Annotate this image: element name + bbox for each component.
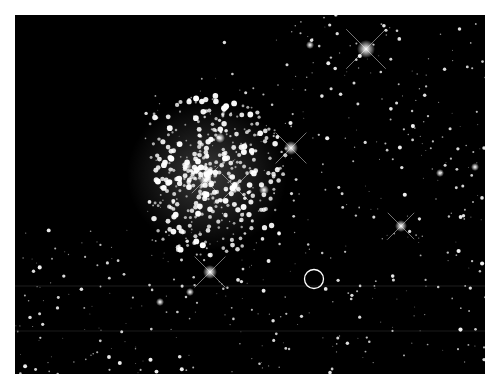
star bbox=[142, 361, 143, 362]
star bbox=[38, 340, 39, 341]
star bbox=[225, 155, 230, 160]
star bbox=[214, 181, 216, 183]
star bbox=[332, 301, 333, 302]
star bbox=[252, 187, 253, 188]
star bbox=[28, 300, 30, 302]
star bbox=[448, 215, 450, 217]
star bbox=[195, 101, 197, 103]
star bbox=[455, 242, 456, 243]
star bbox=[303, 111, 304, 112]
star bbox=[251, 107, 253, 109]
star bbox=[218, 127, 224, 133]
star bbox=[435, 198, 437, 200]
star bbox=[248, 190, 251, 193]
star bbox=[221, 105, 227, 111]
star bbox=[240, 226, 242, 228]
star bbox=[217, 170, 221, 174]
star bbox=[481, 219, 482, 220]
star bbox=[247, 112, 253, 118]
star bbox=[207, 224, 211, 228]
star bbox=[262, 367, 263, 368]
star bbox=[396, 299, 397, 300]
star bbox=[68, 254, 69, 255]
star bbox=[259, 199, 261, 201]
star bbox=[215, 199, 220, 204]
star bbox=[166, 219, 171, 224]
star bbox=[250, 123, 253, 126]
star bbox=[249, 148, 255, 154]
star bbox=[168, 167, 172, 171]
star bbox=[452, 60, 453, 61]
star bbox=[155, 116, 158, 119]
star bbox=[251, 309, 253, 311]
star bbox=[474, 345, 475, 346]
star bbox=[141, 305, 142, 306]
star bbox=[472, 151, 474, 153]
star bbox=[230, 238, 234, 242]
star bbox=[178, 355, 182, 359]
star bbox=[461, 184, 464, 187]
star bbox=[240, 280, 243, 283]
star bbox=[96, 351, 98, 353]
star bbox=[452, 50, 453, 51]
star bbox=[207, 198, 209, 200]
star bbox=[339, 93, 343, 97]
star bbox=[386, 34, 388, 36]
star bbox=[262, 289, 266, 293]
star bbox=[468, 310, 470, 312]
star bbox=[231, 307, 233, 309]
star bbox=[364, 141, 367, 144]
star bbox=[204, 146, 209, 151]
star bbox=[282, 165, 284, 167]
star bbox=[330, 56, 332, 58]
star bbox=[176, 337, 177, 338]
star bbox=[189, 186, 191, 188]
star bbox=[173, 278, 175, 280]
star bbox=[192, 367, 194, 369]
star bbox=[331, 368, 334, 371]
star bbox=[241, 259, 242, 260]
star bbox=[157, 110, 158, 111]
star bbox=[190, 209, 194, 213]
star bbox=[22, 257, 23, 258]
star bbox=[226, 204, 229, 207]
star bbox=[197, 127, 202, 132]
star bbox=[265, 136, 269, 140]
star-field-image bbox=[15, 15, 485, 374]
star bbox=[311, 72, 312, 73]
star bbox=[217, 241, 218, 242]
star bbox=[175, 202, 179, 206]
star bbox=[313, 62, 314, 63]
star bbox=[244, 91, 247, 94]
star bbox=[32, 270, 35, 273]
star bbox=[201, 109, 207, 115]
star bbox=[186, 157, 188, 159]
star bbox=[403, 355, 404, 356]
star bbox=[212, 190, 217, 195]
star bbox=[252, 87, 254, 89]
star bbox=[268, 179, 273, 184]
star bbox=[328, 23, 331, 26]
star bbox=[140, 369, 142, 371]
star bbox=[251, 358, 252, 359]
star bbox=[320, 94, 324, 98]
star bbox=[168, 172, 170, 174]
star bbox=[481, 60, 484, 63]
star bbox=[443, 68, 446, 71]
star bbox=[185, 296, 188, 299]
star bbox=[280, 151, 282, 153]
star bbox=[244, 128, 246, 130]
star bbox=[163, 258, 164, 259]
star bbox=[208, 215, 212, 219]
star bbox=[192, 152, 197, 157]
star bbox=[251, 193, 255, 197]
star bbox=[173, 212, 179, 218]
star bbox=[204, 150, 209, 155]
star bbox=[135, 348, 136, 349]
star bbox=[230, 167, 233, 170]
star bbox=[389, 58, 392, 61]
star bbox=[239, 218, 243, 222]
star bbox=[218, 226, 221, 229]
star bbox=[307, 243, 309, 245]
star bbox=[300, 21, 302, 23]
